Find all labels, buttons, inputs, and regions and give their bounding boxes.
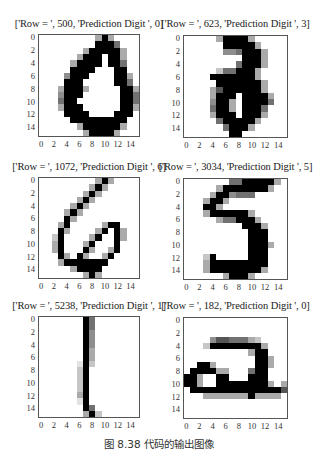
y-tick-label: 8 bbox=[21, 84, 35, 94]
x-tick-label: 14 bbox=[271, 421, 285, 431]
y-tick-label: 12 bbox=[166, 110, 180, 120]
y-tick-label: 0 bbox=[21, 32, 35, 42]
y-tick-label: 12 bbox=[21, 109, 35, 119]
y-tick-label: 4 bbox=[166, 202, 180, 212]
y-tick-label: 6 bbox=[21, 71, 35, 81]
x-tick-label: 4 bbox=[206, 282, 220, 292]
y-tick-label: 14 bbox=[166, 404, 180, 414]
x-tick-label: 0 bbox=[179, 140, 193, 150]
x-tick-label: 14 bbox=[123, 139, 137, 149]
panel-title: ['Row = ', 182, 'Prediction Digit ', 0] bbox=[156, 300, 316, 311]
x-tick-label: 6 bbox=[219, 421, 233, 431]
y-tick-label: 2 bbox=[21, 45, 35, 55]
panel-title: ['Row = ', 623, 'Prediction Digit ', 3] bbox=[156, 18, 316, 29]
x-tick-label: 14 bbox=[271, 140, 285, 150]
y-tick-label: 6 bbox=[166, 214, 180, 224]
x-tick-label: 14 bbox=[123, 420, 137, 430]
y-tick-label: 0 bbox=[21, 175, 35, 185]
y-tick-label: 0 bbox=[166, 315, 180, 325]
x-tick-label: 12 bbox=[258, 140, 272, 150]
y-tick-label: 8 bbox=[166, 366, 180, 376]
x-tick-label: 2 bbox=[192, 421, 206, 431]
heatmap-image bbox=[183, 35, 288, 138]
heatmap-image bbox=[38, 34, 140, 137]
y-tick-label: 12 bbox=[166, 392, 180, 402]
y-tick-label: 10 bbox=[166, 379, 180, 389]
y-tick-label: 4 bbox=[166, 341, 180, 351]
x-tick-label: 6 bbox=[219, 140, 233, 150]
heatmap-image bbox=[183, 178, 288, 280]
y-tick-label: 6 bbox=[166, 72, 180, 82]
x-tick-label: 12 bbox=[258, 282, 272, 292]
y-tick-label: 12 bbox=[21, 391, 35, 401]
x-tick-label: 2 bbox=[192, 282, 206, 292]
y-tick-label: 2 bbox=[21, 327, 35, 337]
y-tick-label: 8 bbox=[21, 365, 35, 375]
x-tick-label: 8 bbox=[232, 140, 246, 150]
y-tick-label: 10 bbox=[21, 239, 35, 249]
figure-caption: 图 8.38 代码的输出图像 bbox=[0, 436, 318, 451]
x-tick-label: 14 bbox=[271, 282, 285, 292]
x-tick-label: 2 bbox=[192, 140, 206, 150]
y-tick-label: 4 bbox=[21, 58, 35, 68]
y-tick-label: 14 bbox=[166, 265, 180, 275]
y-tick-label: 14 bbox=[21, 264, 35, 274]
y-tick-label: 2 bbox=[166, 328, 180, 338]
x-tick-label: 4 bbox=[206, 421, 220, 431]
y-tick-label: 8 bbox=[166, 227, 180, 237]
y-tick-label: 2 bbox=[166, 189, 180, 199]
y-tick-label: 6 bbox=[21, 352, 35, 362]
x-tick-label: 10 bbox=[245, 140, 259, 150]
y-tick-label: 12 bbox=[21, 252, 35, 262]
y-tick-label: 0 bbox=[166, 176, 180, 186]
x-tick-label: 4 bbox=[206, 140, 220, 150]
y-tick-label: 4 bbox=[21, 340, 35, 350]
x-tick-label: 12 bbox=[258, 421, 272, 431]
y-tick-label: 14 bbox=[21, 403, 35, 413]
y-tick-label: 12 bbox=[166, 253, 180, 263]
x-tick-label: 14 bbox=[123, 281, 137, 291]
y-tick-label: 10 bbox=[21, 378, 35, 388]
heatmap-image bbox=[38, 177, 140, 279]
panel-title: ['Row = ', 5238, 'Prediction Digit ', 1] bbox=[9, 300, 169, 311]
y-tick-label: 0 bbox=[21, 314, 35, 324]
y-tick-label: 10 bbox=[166, 240, 180, 250]
y-tick-label: 6 bbox=[166, 353, 180, 363]
y-tick-label: 14 bbox=[166, 123, 180, 133]
y-tick-label: 0 bbox=[166, 33, 180, 43]
y-tick-label: 2 bbox=[166, 46, 180, 56]
panel-title: ['Row = ', 500, 'Prediction Digit ', 0] bbox=[9, 18, 169, 29]
y-tick-label: 8 bbox=[21, 226, 35, 236]
y-tick-label: 8 bbox=[166, 85, 180, 95]
x-tick-label: 0 bbox=[179, 282, 193, 292]
y-tick-label: 10 bbox=[21, 97, 35, 107]
panel-title: ['Row = ', 1072, 'Prediction Digit ', 6] bbox=[9, 161, 169, 172]
x-tick-label: 10 bbox=[245, 421, 259, 431]
y-tick-label: 14 bbox=[21, 122, 35, 132]
x-tick-label: 10 bbox=[245, 282, 259, 292]
heatmap-image bbox=[183, 317, 288, 419]
y-tick-label: 4 bbox=[21, 201, 35, 211]
x-tick-label: 8 bbox=[232, 282, 246, 292]
x-tick-label: 0 bbox=[179, 421, 193, 431]
x-tick-label: 8 bbox=[232, 421, 246, 431]
y-tick-label: 2 bbox=[21, 188, 35, 198]
panel-title: ['Row = ', 3034, 'Prediction Digit ', 5] bbox=[156, 161, 316, 172]
heatmap-image bbox=[38, 316, 140, 418]
y-tick-label: 4 bbox=[166, 59, 180, 69]
x-tick-label: 6 bbox=[219, 282, 233, 292]
y-tick-label: 10 bbox=[166, 98, 180, 108]
y-tick-label: 6 bbox=[21, 213, 35, 223]
